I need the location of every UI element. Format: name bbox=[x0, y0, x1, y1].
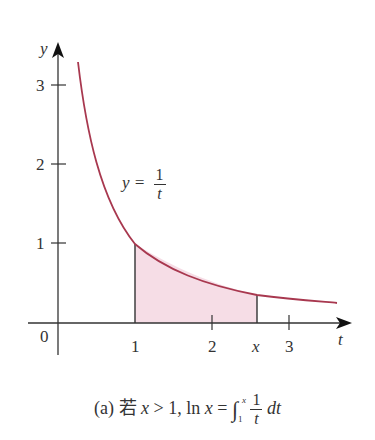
curve-label-num: 1 bbox=[154, 167, 166, 185]
curve-label-den: t bbox=[154, 185, 166, 202]
t-tick-label-2: 2 bbox=[208, 338, 217, 355]
curve-label: y = 1 t bbox=[122, 167, 166, 202]
curve-label-lhs: y = bbox=[122, 173, 145, 192]
t-tick-label-3: 3 bbox=[285, 338, 294, 355]
y-tick-label-1: 1 bbox=[36, 235, 45, 252]
y-axis-label: y bbox=[40, 40, 48, 57]
y-tick-label-2: 2 bbox=[36, 156, 45, 173]
caption-equals: = bbox=[217, 398, 227, 418]
caption-den: t bbox=[250, 410, 262, 427]
caption-dt: dt bbox=[267, 398, 281, 418]
y-tick-label-3: 3 bbox=[36, 77, 45, 94]
caption-var: x bbox=[141, 398, 149, 418]
integral-sign-icon: ∫x1 bbox=[232, 397, 238, 422]
curve-1-over-t bbox=[78, 62, 337, 303]
caption-condition: > 1, ln bbox=[154, 398, 201, 418]
t-tick-label-1: 1 bbox=[131, 338, 140, 355]
integral-upper: x bbox=[242, 395, 246, 405]
caption-prefix: (a) 若 bbox=[94, 398, 136, 418]
integral-lower: 1 bbox=[238, 414, 243, 424]
caption-num: 1 bbox=[250, 392, 262, 410]
figure-caption: (a) 若 x > 1, ln x = ∫x1 1 t dt bbox=[0, 392, 375, 427]
t-tick-label-x: x bbox=[252, 338, 260, 355]
shaded-region bbox=[135, 244, 257, 323]
origin-label: 0 bbox=[40, 328, 49, 345]
t-axis-label: t bbox=[338, 331, 343, 348]
caption-var2: x bbox=[205, 398, 213, 418]
plot-area bbox=[0, 0, 375, 440]
